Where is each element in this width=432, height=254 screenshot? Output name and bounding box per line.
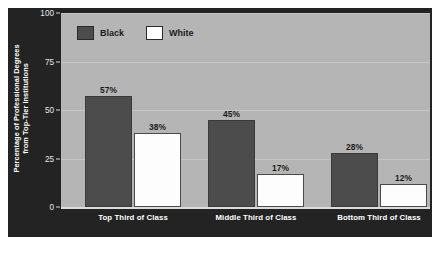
legend-label: White <box>169 28 194 38</box>
y-tick-label: 50 <box>45 106 54 115</box>
y-tick-label: 100 <box>40 9 54 18</box>
x-axis-label: Top Third of Class <box>98 213 168 222</box>
legend-swatch-icon <box>77 26 94 40</box>
legend-item-white: White <box>146 26 194 40</box>
bar-black-2: 28% <box>331 153 378 207</box>
y-tick-label: 75 <box>45 57 54 66</box>
y-axis-tick-labels: 0255075100 <box>32 8 60 209</box>
chart-figure: Percentage of Professional Degrees from … <box>8 8 432 237</box>
y-tick-mark <box>56 61 60 62</box>
bar-group: 28%12% <box>307 13 430 209</box>
bar-value-label: 12% <box>395 173 412 183</box>
legend-label: Black <box>100 28 124 38</box>
y-axis-title: Percentage of Professional Degrees from … <box>8 8 34 209</box>
bar-value-label: 45% <box>223 109 240 119</box>
bar-white-0: 38% <box>134 133 181 207</box>
bar-white-1: 17% <box>257 174 304 207</box>
legend-item-black: Black <box>77 26 124 40</box>
y-tick-mark <box>56 110 60 111</box>
bar-black-0: 57% <box>85 96 132 207</box>
x-axis-label: Bottom Third of Class <box>337 213 421 222</box>
y-tick-label: 0 <box>49 203 54 212</box>
bar-value-label: 28% <box>346 142 363 152</box>
y-tick-mark <box>56 158 60 159</box>
y-tick-mark <box>56 13 60 14</box>
bar-group: 45%17% <box>184 13 307 209</box>
y-tick-label: 25 <box>45 154 54 163</box>
y-tick-mark <box>56 207 60 208</box>
chart-legend: BlackWhite <box>77 26 194 40</box>
bar-white-2: 12% <box>380 184 427 207</box>
bar-value-label: 17% <box>272 163 289 173</box>
y-axis-title-line-2: from Top-Tier Institutions <box>21 44 30 172</box>
bar-black-1: 45% <box>208 120 255 207</box>
x-axis-label: Middle Third of Class <box>216 213 297 222</box>
bar-group: 57%38% <box>61 13 184 209</box>
bar-value-label: 38% <box>149 122 166 132</box>
bar-value-label: 57% <box>100 85 117 95</box>
plot-area: BlackWhite 57%38%45%17%28%12% <box>61 13 430 209</box>
x-axis-labels: Top Third of ClassMiddle Third of ClassB… <box>61 213 430 231</box>
bars-layer: 57%38%45%17%28%12% <box>61 13 430 209</box>
y-axis-title-line-1: Percentage of Professional Degrees <box>12 44 21 172</box>
legend-swatch-icon <box>146 26 163 40</box>
